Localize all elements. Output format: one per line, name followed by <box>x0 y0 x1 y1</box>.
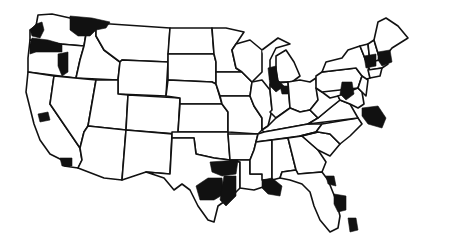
state-ct-ri <box>368 68 382 78</box>
region-sf-bay <box>38 112 50 122</box>
state-sd <box>168 54 216 84</box>
region-albany <box>378 50 392 66</box>
region-washington-dc <box>362 106 386 128</box>
state-wy <box>118 60 168 96</box>
region-new-orleans <box>262 178 282 196</box>
us-map <box>0 0 454 246</box>
state-nd <box>168 28 214 54</box>
state-ks <box>178 104 228 132</box>
state-az <box>78 126 126 180</box>
region-san-diego <box>60 158 72 166</box>
state-co <box>126 95 180 134</box>
region-rochester <box>364 54 376 68</box>
state-mi <box>262 38 300 82</box>
state-outlines <box>26 14 408 232</box>
region-miami <box>348 218 358 232</box>
